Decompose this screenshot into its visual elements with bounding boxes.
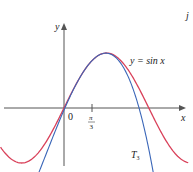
origin-label: 0 bbox=[68, 111, 73, 122]
x-axis-arrow-icon bbox=[179, 105, 186, 111]
taylor-polynomial-chart: y x 0 π 3 y = sin x T3 j bbox=[0, 0, 193, 172]
t3-label-subscript: 3 bbox=[137, 155, 140, 161]
corner-text-fragment: j bbox=[184, 10, 189, 21]
tick-label-numerator: π bbox=[89, 114, 93, 122]
y-axis-arrow-icon bbox=[61, 23, 67, 30]
tick-label-denominator: 3 bbox=[90, 123, 94, 131]
sin-curve-label: y = sin x bbox=[129, 55, 165, 66]
t3-label: T3 bbox=[131, 149, 140, 161]
y-axis-label: y bbox=[54, 21, 60, 32]
x-axis-label: x bbox=[180, 112, 186, 123]
t3-curve bbox=[38, 53, 161, 172]
